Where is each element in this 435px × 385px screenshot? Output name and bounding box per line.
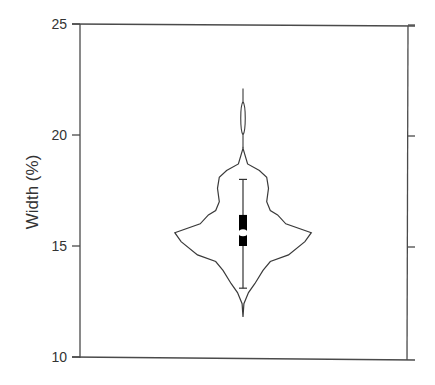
median-marker [239,229,248,236]
y-tick-label: 25 [51,16,67,32]
top-axis-line [72,24,415,26]
box-plot [239,179,248,288]
bottom-axis-line [72,357,415,360]
violin-chart: 10152025 Width (%) [0,0,435,385]
y-tick-label: 10 [51,349,67,365]
y-axis-title: Width (%) [23,155,42,230]
y-tick-label: 20 [51,127,67,143]
right-axis-line [407,26,408,360]
right-axis-ticks [408,25,415,247]
violin-upper-tail [241,88,246,148]
y-axis-ticks: 10152025 [51,16,80,365]
y-tick-label: 15 [51,238,67,254]
